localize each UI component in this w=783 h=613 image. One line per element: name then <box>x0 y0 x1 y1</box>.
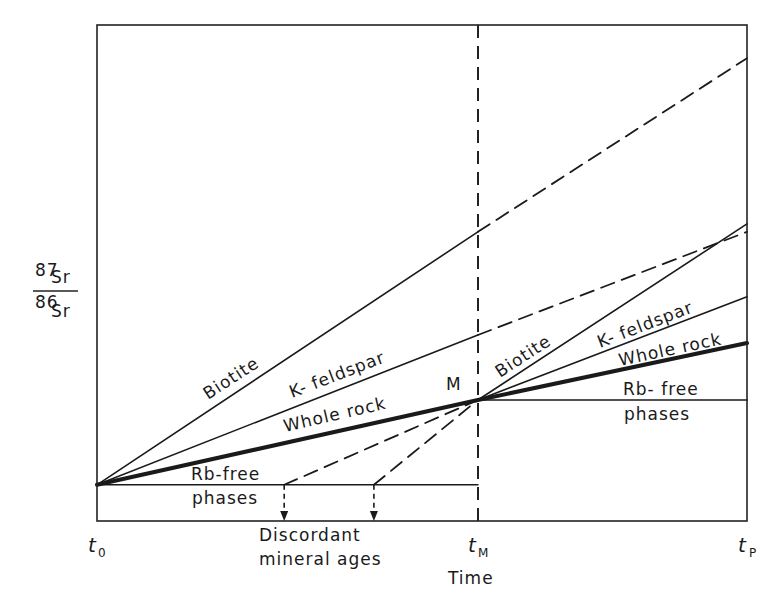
y-label-element-bottom: Sr <box>51 301 71 321</box>
label-rbfree-post-2: phases <box>624 404 690 424</box>
label-rbfree-post-1: Rb- free <box>623 379 699 399</box>
sr-evolution-diagram: 87 Sr 86 Sr t 0 t M t P Time M Biotite K… <box>0 0 783 613</box>
x-tick-t0-main: t <box>88 533 97 557</box>
x-tick-tP-main: t <box>738 533 747 557</box>
point-M-label: M <box>446 374 462 394</box>
x-tick-tM: t M <box>468 533 488 560</box>
discordant-age-arrow-1-head <box>280 511 288 521</box>
series-line-k-feldspar-undisturbed <box>478 232 747 335</box>
x-axis-label: Time <box>447 568 494 588</box>
label-discordant-2: mineral ages <box>259 549 382 569</box>
discordant-age-arrow-2-head <box>370 511 378 521</box>
discordant-age-arrows <box>280 485 378 521</box>
x-tick-t0: t 0 <box>88 533 106 560</box>
x-tick-tM-sub: M <box>478 546 488 560</box>
x-tick-tP-sub: P <box>749 546 756 560</box>
label-kfeldspar-pre: K- feldspar <box>286 347 387 402</box>
x-tick-tM-main: t <box>468 533 477 557</box>
x-tick-tP: t P <box>738 533 756 560</box>
y-label-element-top: Sr <box>51 267 71 287</box>
x-tick-t0-sub: 0 <box>98 546 106 560</box>
label-discordant-1: Discordant <box>259 525 361 545</box>
label-rbfree-pre-1: Rb-free <box>191 464 260 484</box>
label-rbfree-pre-2: phases <box>192 488 258 508</box>
y-axis-label: 87 Sr 86 Sr <box>33 260 78 321</box>
series-line-biotite-undisturbed <box>478 58 747 232</box>
